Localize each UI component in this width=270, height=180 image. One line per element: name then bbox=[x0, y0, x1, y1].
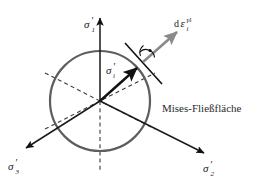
label-depsilon-subscript: i bbox=[187, 25, 189, 33]
label-plastic-strain-increment: d ε i pl bbox=[174, 16, 192, 34]
label-depsilon-superscript: pl bbox=[187, 16, 192, 23]
label-sigma3-symbol: σ bbox=[8, 160, 14, 172]
label-depsilon-prefix: d bbox=[174, 18, 179, 29]
label-sigma1-prime: ′ bbox=[92, 15, 94, 26]
label-axis-sigma3: σ ′ 3 bbox=[8, 157, 20, 176]
plastic-strain-increment-vector bbox=[143, 32, 177, 62]
diagram-canvas: σ ′ 1 σ ′ 2 σ ′ 3 σ ′ i d ε i pl bbox=[0, 0, 270, 180]
label-depsilon-symbol: ε bbox=[181, 17, 186, 29]
label-axis-sigma1: σ ′ 1 bbox=[84, 15, 95, 34]
label-sigmai-prime: ′ bbox=[114, 61, 116, 72]
label-yield-surface-name: Mises-Fließfläche bbox=[162, 102, 242, 114]
label-stress-vector: σ ′ i bbox=[106, 61, 116, 80]
right-angle-dot-icon bbox=[148, 49, 151, 52]
label-sigma3-prime: ′ bbox=[16, 157, 18, 168]
label-sigmai-subscript: i bbox=[113, 72, 115, 80]
label-sigma2-prime: ′ bbox=[211, 159, 213, 170]
label-sigma2-symbol: σ bbox=[203, 162, 209, 174]
right-angle-marker bbox=[140, 46, 155, 58]
label-sigma1-symbol: σ bbox=[84, 18, 90, 30]
axis-sigma3 bbox=[26, 101, 100, 148]
label-sigma2-subscript: 2 bbox=[211, 170, 215, 178]
label-sigma3-subscript: 3 bbox=[15, 168, 20, 176]
label-axis-sigma2: σ ′ 2 bbox=[203, 159, 215, 178]
label-sigma1-subscript: 1 bbox=[92, 26, 96, 34]
label-sigmai-symbol: σ bbox=[106, 64, 112, 76]
yield-surface-figure: σ ′ 1 σ ′ 2 σ ′ 3 σ ′ i d ε i pl bbox=[0, 0, 270, 180]
